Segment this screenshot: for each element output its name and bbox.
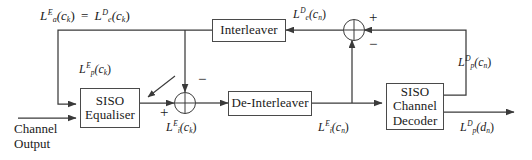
label-lp-d-dn: LDp(dn) xyxy=(460,120,494,135)
label-lp-e-ck-symbol: L xyxy=(79,62,86,76)
turbo-equalisation-diagram: SISO Equaliser De-Interleaver Interleave… xyxy=(0,0,532,160)
block-decoder-line2: Channel xyxy=(393,99,437,113)
label-lp-e-ck: LEp(ck) xyxy=(79,62,111,77)
label-li-e-ck: LEi(ck) xyxy=(166,120,196,135)
pointer-lp-e-ck xyxy=(148,76,175,97)
label-lp-d-dn-symbol: L xyxy=(460,120,467,134)
label-equals-sign: = xyxy=(78,8,91,23)
label-channel-output-line2: Output xyxy=(14,137,57,152)
label-li-e-cn: LEi(cn) xyxy=(318,120,349,135)
wire-feedback-to-equaliser xyxy=(58,38,76,104)
label-channel-output-line1: Channel xyxy=(14,122,57,137)
sign-right-adder-minus: − xyxy=(369,37,377,52)
sign-right-adder-plus: + xyxy=(369,10,377,25)
label-le-d-cn: LDe(cn) xyxy=(293,7,326,22)
summing-node-right xyxy=(343,19,365,41)
block-de-interleaver-label: De-Interleaver xyxy=(231,96,308,110)
label-li-e-cn-symbol: L xyxy=(318,120,325,134)
label-li-e-ck-symbol: L xyxy=(166,120,173,134)
label-la-e-ck-symbol: L xyxy=(40,8,48,23)
block-interleaver[interactable]: Interleaver xyxy=(212,19,286,42)
sign-left-adder-minus: − xyxy=(198,72,206,87)
label-le-d-ck-symbol: L xyxy=(95,8,103,23)
label-lp-d-cn: LDp(cn) xyxy=(458,55,491,70)
label-channel-output: Channel Output xyxy=(14,122,57,151)
block-siso-equaliser-line1: SISO xyxy=(96,94,125,108)
block-interleaver-label: Interleaver xyxy=(220,23,277,37)
label-lp-d-cn-symbol: L xyxy=(458,55,465,69)
summing-node-left xyxy=(174,92,196,114)
label-la-e-ck-eq-le-d-ck: LEa(ck) = LDe(ck) xyxy=(40,8,130,24)
block-de-interleaver[interactable]: De-Interleaver xyxy=(228,91,312,116)
sign-left-adder-plus: + xyxy=(160,105,168,120)
block-siso-channel-decoder[interactable]: SISO Channel Decoder xyxy=(386,83,444,130)
block-decoder-line3: Decoder xyxy=(393,114,438,128)
block-decoder-line1: SISO xyxy=(401,85,430,99)
wire-interleaver-to-feedback-bus xyxy=(58,30,212,38)
label-le-d-cn-symbol: L xyxy=(293,7,300,21)
block-siso-equaliser[interactable]: SISO Equaliser xyxy=(80,88,140,128)
block-siso-equaliser-line2: Equaliser xyxy=(85,108,135,122)
